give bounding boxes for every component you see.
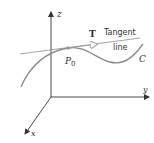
- x-axis: [25, 97, 51, 134]
- y-axis-label: y: [142, 85, 148, 94]
- tangent-vector-label: T: [89, 29, 96, 39]
- point-p0-label: P0: [64, 56, 76, 68]
- z-axis-label: z: [56, 9, 62, 19]
- tangent-line-label-2: line: [113, 43, 128, 52]
- point-p0: [66, 46, 70, 50]
- tangent-vector-t: [68, 44, 97, 48]
- x-axis-label: x: [31, 129, 36, 138]
- curve-label: C: [139, 54, 146, 64]
- tangent-line-diagram: z y x T Tangent line P0 C: [0, 0, 154, 143]
- tangent-line-label-1: Tangent: [103, 28, 136, 37]
- point-p0-label-sub: 0: [71, 60, 75, 68]
